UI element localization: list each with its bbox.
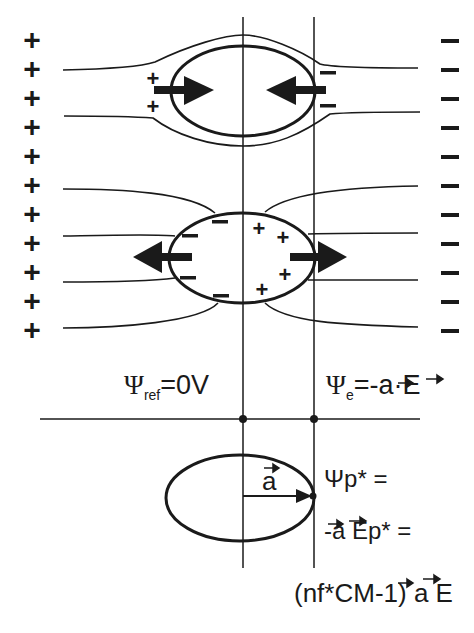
surface-dot: [310, 493, 317, 500]
dielectrophoresis-diagram: +++ +++ +++ ++ ++ ++ ++ Ψref=0V Ψe=-a·E …: [0, 0, 474, 633]
bottom-particle: [166, 455, 314, 541]
edge-dot: [310, 415, 318, 423]
svg-text:+: +: [277, 225, 290, 250]
top-arrow-right-shaft: [292, 86, 326, 94]
top-arrow-left-head: [266, 76, 296, 105]
svg-text:+: +: [256, 277, 269, 302]
middle-arrow-right-head: [318, 241, 347, 273]
psi-p-line1: Ψp* =: [324, 465, 387, 493]
psi-p-line2: -a Ep* =: [324, 517, 411, 545]
svg-text:+: +: [279, 262, 292, 287]
psi-e-label: Ψe=-a·E: [326, 370, 421, 403]
middle-arrow-left-head: [133, 241, 162, 273]
middle-arrow-right-shaft: [290, 253, 320, 261]
left-plate-charges: +++ +++ +++ ++: [23, 23, 41, 346]
psi-p-line3: (nf*CM-1) a E: [294, 578, 453, 609]
psi-ref-label: Ψref=0V: [124, 370, 209, 403]
svg-text:+: +: [147, 94, 160, 119]
top-arrow-right-head: [184, 76, 214, 105]
vector-a-label: a: [262, 466, 276, 497]
right-plate-charges: [441, 39, 459, 333]
ref-dot: [239, 415, 247, 423]
svg-text:+: +: [23, 313, 41, 346]
svg-text:+: +: [253, 216, 266, 241]
svg-text:+: +: [147, 66, 160, 91]
